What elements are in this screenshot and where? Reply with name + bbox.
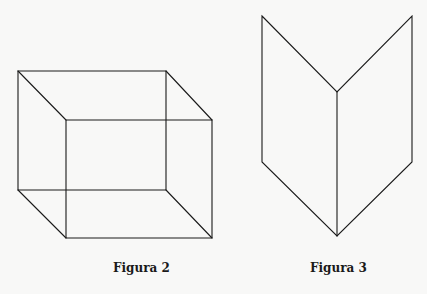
cube-edge-top-left: [18, 71, 66, 120]
cube-edge-bottom-right: [166, 190, 212, 238]
figure-2-caption: Figura 2: [113, 261, 170, 275]
cube-edge-top-right: [166, 71, 212, 120]
figures-canvas: [0, 0, 427, 294]
figure-3-caption: Figura 3: [310, 261, 367, 275]
figure-2-cube: [18, 71, 212, 238]
cube-front-face: [66, 120, 212, 238]
cube-edge-bottom-left: [18, 190, 66, 238]
figure-3-folded-v: [262, 16, 412, 236]
cube-back-face: [18, 71, 166, 190]
figure-page: Figura 2 Figura 3: [0, 0, 427, 294]
